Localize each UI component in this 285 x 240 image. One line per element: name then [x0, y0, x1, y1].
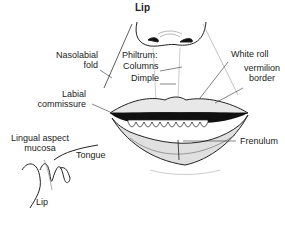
upper-lip — [110, 97, 248, 113]
label-nasolabial-fold: Nasolabial fold — [28, 50, 98, 70]
label-lip-inset: Lip — [36, 197, 48, 207]
label-line: vermilion — [240, 63, 284, 73]
label-columns: Columns — [123, 61, 159, 71]
teeth — [128, 120, 208, 127]
label-frenulum: Frenulum — [240, 136, 278, 146]
label-line: Labial — [20, 89, 86, 99]
label-lingual-aspect-mucosa: Lingual aspect mucosa — [6, 133, 74, 153]
label-line: mucosa — [6, 143, 74, 153]
label-line: fold — [28, 60, 98, 70]
label-line: border — [240, 73, 284, 83]
label-tongue: Tongue — [76, 150, 106, 160]
label-line: Lingual aspect — [6, 133, 74, 143]
label-dimple: Dimple — [131, 73, 159, 83]
label-philtrum: Philtrum: — [122, 50, 158, 60]
label-line: commissure — [20, 99, 86, 109]
label-line: Nasolabial — [28, 50, 98, 60]
label-white-roll: White roll — [231, 49, 269, 59]
nose-drawing — [136, 22, 206, 46]
label-labial-commissure: Labial commissure — [20, 89, 86, 109]
label-vermilion-border: vermilion border — [240, 63, 284, 83]
